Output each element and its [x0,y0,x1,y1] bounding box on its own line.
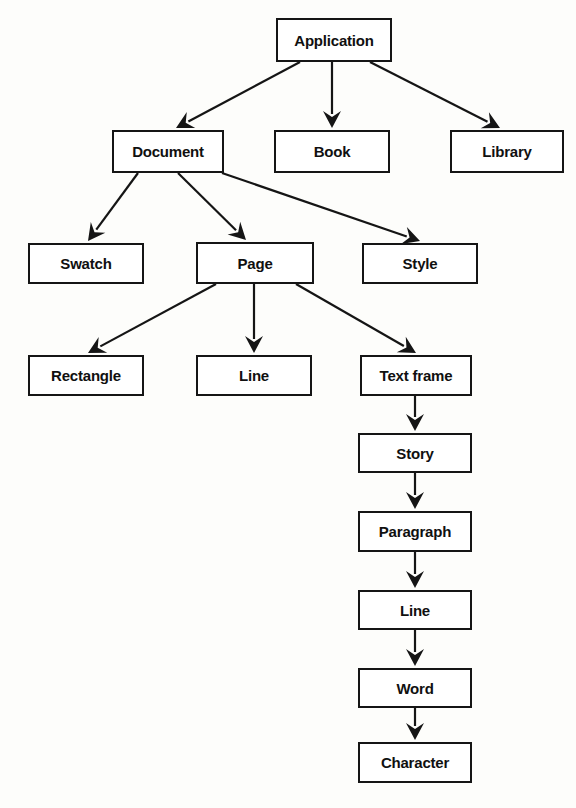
node-document[interactable]: Document [112,130,224,173]
node-label-application: Application [294,33,373,48]
edge-application-to-document [176,62,300,128]
node-story[interactable]: Story [358,433,472,473]
node-label-line-page: Line [239,368,269,383]
node-textframe[interactable]: Text frame [360,355,472,396]
node-label-rectangle: Rectangle [51,368,121,383]
node-label-swatch: Swatch [60,256,111,271]
edge-story-to-paragraph [406,473,424,509]
node-paragraph[interactable]: Paragraph [358,511,472,552]
node-line-page[interactable]: Line [196,355,312,396]
node-label-page: Page [237,256,272,271]
edge-document-to-page [178,173,246,240]
edge-line [188,62,300,121]
edge-page-to-textframe [296,284,416,353]
node-book[interactable]: Book [274,130,390,173]
edge-word-to-character [406,708,424,740]
node-character[interactable]: Character [358,742,472,783]
node-application[interactable]: Application [276,18,392,62]
edge-line [296,284,404,346]
node-library[interactable]: Library [450,130,564,173]
node-style[interactable]: Style [362,243,478,284]
node-swatch[interactable]: Swatch [28,243,144,284]
arrowhead [88,222,105,241]
edge-layer [0,0,576,808]
node-rectangle[interactable]: Rectangle [28,355,144,396]
node-label-library: Library [482,144,531,159]
node-label-story: Story [396,446,433,461]
edge-line [222,173,407,236]
node-label-paragraph: Paragraph [379,524,451,539]
node-word[interactable]: Word [358,668,472,708]
node-line-story[interactable]: Line [358,590,472,630]
diagram-canvas: ApplicationDocumentBookLibrarySwatchPage… [0,0,576,808]
edge-page-to-line-page [245,284,263,353]
edge-paragraph-to-line-story [406,552,424,588]
edge-textframe-to-story [406,396,424,431]
edge-line [370,62,488,122]
edge-document-to-swatch [88,173,138,241]
edge-line [178,173,236,230]
edge-application-to-book [323,62,341,128]
node-page[interactable]: Page [196,242,314,284]
node-label-character: Character [381,755,449,770]
node-label-word: Word [396,681,433,696]
edge-page-to-rectangle [88,284,216,353]
node-label-book: Book [314,144,351,159]
edge-line [100,284,216,346]
edge-line-story-to-word [406,630,424,666]
node-label-line-story: Line [400,603,430,618]
edge-application-to-library [370,62,500,128]
node-label-textframe: Text frame [380,368,453,383]
node-label-style: Style [403,256,438,271]
edge-document-to-style [222,173,420,244]
edge-line [96,173,138,230]
node-label-document: Document [132,144,204,159]
